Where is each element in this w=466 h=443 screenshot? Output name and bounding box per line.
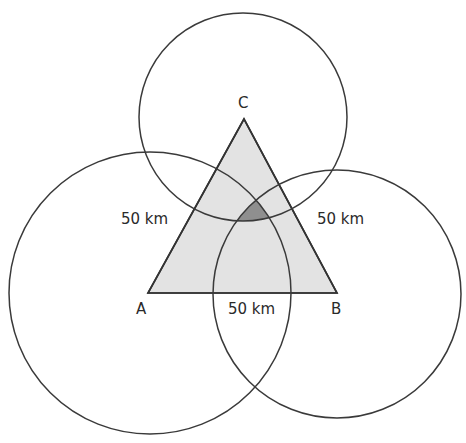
edge-label-bc: 50 km [317,212,364,227]
diagram-svg [0,0,466,443]
edge-label-ab: 50 km [228,302,275,317]
edge-label-ac: 50 km [121,212,168,227]
trilateration-diagram: C A B 50 km 50 km 50 km [0,0,466,443]
point-label-c: C [238,96,248,111]
point-label-a: A [136,302,146,317]
point-label-b: B [331,302,341,317]
triangle-abc [148,119,337,293]
